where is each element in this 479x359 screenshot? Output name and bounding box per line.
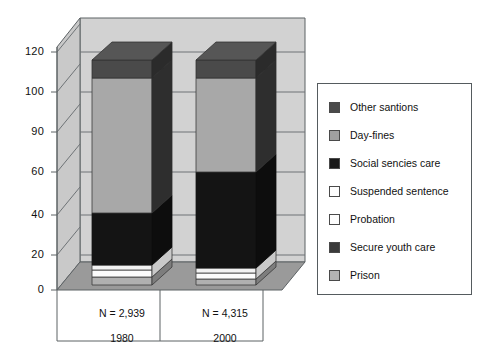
legend-swatch-icon — [329, 242, 340, 253]
legend-item-social-sencies-care[interactable]: Social sencies care — [318, 149, 471, 177]
x-category-1980: N = 2,939 1980 — [62, 307, 182, 344]
y-tick-label: 20 — [8, 249, 44, 260]
legend-list: Other santions Day-fines Social sencies … — [318, 84, 471, 294]
legend-item-label: Other santions — [350, 101, 418, 113]
bar-1980 — [92, 42, 172, 285]
legend-swatch-icon — [329, 158, 340, 169]
y-axis-ticks — [51, 52, 57, 290]
legend: Other santions Day-fines Social sencies … — [317, 83, 472, 295]
legend-item-label: Suspended sentence — [350, 185, 449, 197]
y-tick-label: 90 — [8, 126, 44, 137]
y-tick-label: 60 — [8, 166, 44, 177]
left-side-wall — [57, 18, 80, 290]
bar-2000-side-social — [256, 154, 276, 268]
y-tick-label: 40 — [8, 209, 44, 220]
y-tick-label: 0 — [8, 284, 44, 295]
legend-swatch-icon — [329, 186, 340, 197]
y-tick-label: 120 — [8, 46, 44, 57]
bar-2000 — [196, 42, 276, 285]
bar-1980-seg-probation — [92, 265, 152, 270]
legend-item-day-fines[interactable]: Day-fines — [318, 121, 471, 149]
legend-item-suspended-sentence[interactable]: Suspended sentence — [318, 177, 471, 205]
bar-2000-seg-other-front — [196, 60, 256, 78]
bar-1980-seg-dayfines — [92, 78, 152, 213]
legend-swatch-icon — [329, 270, 340, 281]
legend-item-prison[interactable]: Prison — [318, 261, 471, 289]
legend-item-probation[interactable]: Probation — [318, 205, 471, 233]
legend-item-secure-youth-care[interactable]: Secure youth care — [318, 233, 471, 261]
bar-2000-seg-dayfines — [196, 78, 256, 172]
y-tick-label: 100 — [8, 86, 44, 97]
x-category-year-2000: 2000 — [165, 332, 285, 344]
stacked-bar-chart-3d: 120 100 90 60 40 20 0 N = 2,939 1980 N =… — [0, 0, 479, 359]
legend-swatch-icon — [329, 214, 340, 225]
bar-1980-seg-prison — [92, 277, 152, 285]
legend-item-label: Secure youth care — [350, 241, 435, 253]
legend-item-other-santions[interactable]: Other santions — [318, 93, 471, 121]
legend-item-label: Social sencies care — [350, 157, 440, 169]
x-category-n-1980: N = 2,939 — [62, 307, 182, 319]
bar-1980-seg-suspended — [92, 270, 152, 277]
x-category-2000: N = 4,315 2000 — [165, 307, 285, 344]
legend-item-label: Day-fines — [350, 129, 394, 141]
bar-2000-seg-prison — [196, 279, 256, 285]
bar-1980-seg-other-front — [92, 60, 152, 78]
x-category-n-2000: N = 4,315 — [165, 307, 285, 319]
bar-2000-seg-suspended — [196, 273, 256, 279]
bar-2000-seg-social — [196, 172, 256, 268]
legend-item-label: Probation — [350, 213, 395, 225]
legend-swatch-icon — [329, 130, 340, 141]
bar-2000-side-dayfines — [256, 60, 276, 172]
legend-swatch-icon — [329, 102, 340, 113]
bar-1980-side-dayfines — [152, 60, 172, 213]
bar-2000-seg-probation — [196, 268, 256, 273]
x-category-year-1980: 1980 — [62, 332, 182, 344]
legend-item-label: Prison — [350, 269, 380, 281]
bar-1980-seg-social — [92, 213, 152, 265]
